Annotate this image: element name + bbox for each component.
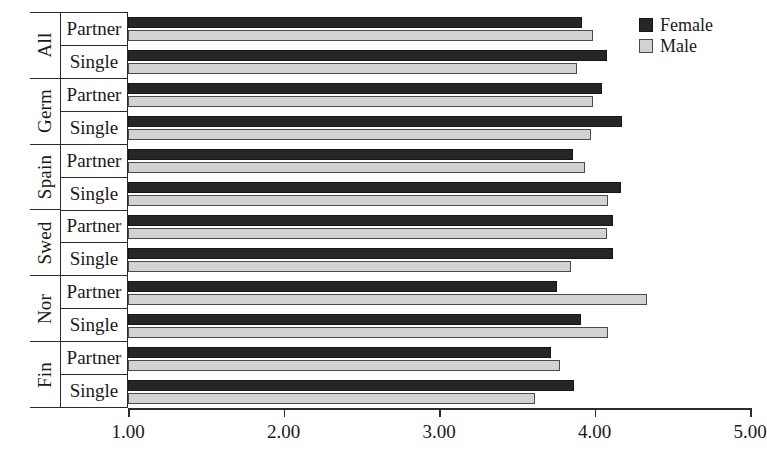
status-cell: Partner [61, 211, 127, 244]
bar-female [128, 116, 622, 127]
country-label: Germ [34, 89, 56, 133]
status-cell: Single [61, 178, 127, 211]
bar-female [128, 182, 621, 193]
country-cell: Germ [30, 79, 60, 145]
bar-row [128, 177, 750, 210]
bar-row [128, 309, 750, 342]
country-cell: Fin [30, 342, 60, 407]
bar-male [128, 360, 560, 371]
country-label-column: All Germ Spain Swed Nor Fin [30, 13, 60, 407]
bar-chart: All Germ Spain Swed Nor Fin Partner Sing… [0, 0, 767, 462]
country-label: Spain [34, 155, 56, 199]
axis-tick [750, 408, 752, 417]
bar-female [128, 83, 602, 94]
bar-row [128, 342, 750, 375]
bar-row [128, 276, 750, 309]
legend-label-female: Female [660, 16, 713, 34]
status-cell: Partner [61, 342, 127, 375]
axis-tick [128, 408, 130, 417]
bar-male [128, 327, 608, 338]
bar-male [128, 261, 571, 272]
bar-female [128, 149, 573, 160]
status-cell: Partner [61, 79, 127, 112]
bar-female [128, 281, 557, 292]
bar-male [128, 162, 585, 173]
country-label: Swed [34, 221, 56, 264]
status-cell: Single [61, 112, 127, 145]
axis-tick-label: 3.00 [422, 421, 455, 443]
bar-row [128, 210, 750, 243]
bar-row [128, 78, 750, 111]
status-label-column: Partner Single Partner Single Partner Si… [60, 13, 128, 407]
axis-tick-label: 1.00 [111, 421, 144, 443]
axis-tick-label: 2.00 [267, 421, 300, 443]
status-cell: Partner [61, 145, 127, 178]
bar-female [128, 50, 607, 61]
status-cell: Single [61, 375, 127, 407]
country-label: Nor [34, 294, 56, 324]
bar-female [128, 215, 613, 226]
bar-male [128, 96, 593, 107]
country-label: Fin [34, 362, 56, 388]
bar-male [128, 63, 577, 74]
bar-female [128, 314, 581, 325]
bar-male [128, 195, 608, 206]
country-cell: Spain [30, 145, 60, 211]
status-cell: Single [61, 46, 127, 79]
bar-female [128, 17, 582, 28]
axis-tick-label: 4.00 [578, 421, 611, 443]
legend-swatch-male-icon [639, 39, 653, 53]
bar-row [128, 375, 750, 408]
country-label: All [34, 33, 56, 58]
category-axis: All Germ Spain Swed Nor Fin Partner Sing… [30, 12, 128, 408]
plot-area [128, 12, 750, 408]
legend-item-male: Male [639, 37, 713, 55]
value-axis: 1.002.003.004.005.00 [128, 408, 750, 410]
bar-male [128, 294, 647, 305]
bar-male [128, 30, 593, 41]
legend-label-male: Male [660, 37, 697, 55]
legend: Female Male [639, 16, 713, 55]
country-cell: Nor [30, 276, 60, 342]
status-cell: Single [61, 309, 127, 342]
bar-row [128, 144, 750, 177]
status-cell: Partner [61, 276, 127, 309]
bar-male [128, 393, 535, 404]
axis-tick [284, 408, 286, 417]
country-cell: Swed [30, 210, 60, 276]
bar-female [128, 380, 574, 391]
status-cell: Partner [61, 13, 127, 46]
bar-row [128, 111, 750, 144]
bar-female [128, 248, 613, 259]
legend-swatch-female-icon [639, 18, 653, 32]
axis-tick [439, 408, 441, 417]
bar-rows [128, 12, 750, 408]
bar-row [128, 243, 750, 276]
bar-female [128, 347, 551, 358]
country-cell: All [30, 13, 60, 79]
legend-item-female: Female [639, 16, 713, 34]
status-cell: Single [61, 243, 127, 276]
bar-male [128, 228, 607, 239]
axis-tick [595, 408, 597, 417]
axis-tick-label: 5.00 [733, 421, 766, 443]
bar-male [128, 129, 591, 140]
